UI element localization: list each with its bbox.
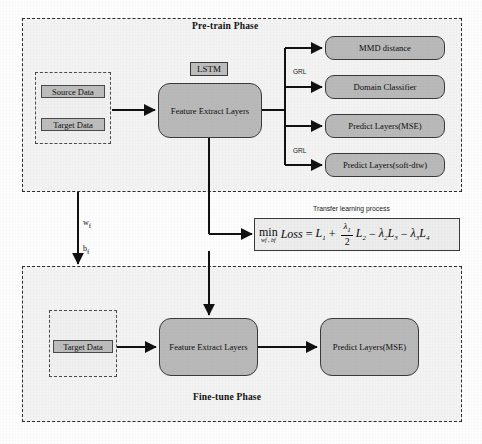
head-domain-classifier[interactable]: Domain Classifier: [325, 75, 445, 99]
lstm-label-box[interactable]: LSTM: [190, 62, 228, 76]
lambda1-over-2-fraction: λ1 2: [341, 222, 352, 247]
pretrain-input-group: [35, 72, 111, 144]
pretrain-feature-extract-layers[interactable]: Feature Extract Layers: [158, 83, 262, 138]
finetune-phase-title: Fine-tune Phase: [193, 392, 261, 402]
transfer-process-caption: Transfer learning process: [313, 205, 390, 212]
term-l4: L4: [419, 227, 429, 242]
plus-sign: +: [329, 228, 336, 240]
finetune-target-data-chip[interactable]: Target Data: [53, 340, 113, 353]
head-predict-layers-mse[interactable]: Predict Layers(MSE): [325, 114, 445, 138]
min-operator: min wf , bf: [259, 226, 278, 243]
equals-sign: =: [306, 228, 313, 240]
term-l1: L1: [315, 227, 325, 242]
grl-label-top: GRL: [293, 68, 306, 75]
term-l2: L2: [356, 227, 366, 242]
minus-sign-1: −: [369, 228, 376, 240]
minus-sign-2: −: [401, 228, 408, 240]
pretrain-phase-title: Pre-train Phase: [192, 21, 258, 31]
diagram-canvas: Pre-train Phase Source Data Target Data …: [0, 0, 482, 444]
coef-lambda3: λ3: [410, 227, 419, 242]
weight-w-label: wf: [83, 218, 91, 230]
target-data-chip[interactable]: Target Data: [41, 118, 105, 131]
bias-b-label: bf: [83, 244, 89, 256]
coef-lambda2: λ2: [379, 227, 388, 242]
finetune-predict-layers-mse[interactable]: Predict Layers(MSE): [320, 318, 419, 376]
transfer-loss-equation: min wf , bf Loss = L1 + λ1 2 L2 − λ2 L3 …: [259, 222, 429, 247]
head-predict-layers-soft-dtw[interactable]: Predict Layers(soft-dtw): [325, 153, 445, 177]
head-mmd-distance[interactable]: MMD distance: [325, 36, 445, 60]
grl-label-bottom: GRL: [293, 147, 306, 154]
loss-term: Loss: [281, 228, 303, 240]
transfer-loss-formula-box: min wf , bf Loss = L1 + λ1 2 L2 − λ2 L3 …: [254, 218, 460, 251]
term-l3: L3: [388, 227, 398, 242]
source-data-chip[interactable]: Source Data: [41, 85, 105, 98]
finetune-feature-extract-layers[interactable]: Feature Extract Layers: [159, 318, 258, 376]
